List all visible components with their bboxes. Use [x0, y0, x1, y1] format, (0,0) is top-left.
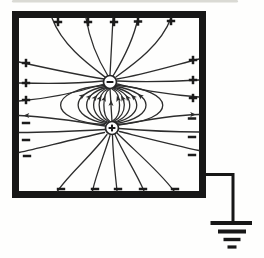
wall-minus-symbol: [114, 188, 122, 191]
field-line: [110, 89, 112, 122]
wall-plus-symbol: [192, 94, 195, 102]
field-line: [86, 18, 108, 76]
wall-minus-symbol: [188, 117, 196, 120]
field-line: [117, 59, 199, 79]
wall-minus-symbol: [188, 136, 196, 139]
field-diagram: [0, 0, 264, 258]
field-line: [52, 18, 105, 77]
wall-minus-symbol: [188, 154, 196, 157]
field-line: [78, 87, 105, 124]
positive-charge-symbol: [111, 125, 113, 132]
wall-minus-symbol: [91, 188, 99, 191]
wall-plus-symbol: [170, 17, 173, 25]
wall-plus-symbol: [137, 17, 140, 25]
wall-plus-symbol: [192, 56, 195, 64]
wall-minus-symbol: [139, 188, 147, 191]
field-arrow: [24, 113, 30, 118]
field-line: [58, 135, 108, 192]
wall-plus-symbol: [25, 59, 28, 67]
field-line: [61, 86, 105, 125]
wall-plus-symbol: [25, 96, 28, 104]
field-line: [93, 136, 111, 192]
field-line: [19, 116, 105, 127]
ground-wire: [202, 175, 233, 222]
wall-plus-symbol: [87, 18, 90, 26]
wall-minus-symbol: [22, 122, 30, 125]
wall-minus-symbol: [23, 155, 31, 158]
field-line: [113, 18, 138, 76]
field-line: [113, 136, 118, 192]
field-line: [115, 88, 137, 123]
field-line: [118, 80, 200, 82]
wall-minus-symbol: [171, 188, 179, 191]
field-line: [19, 62, 104, 79]
figure-canvas: [0, 0, 264, 258]
scan-artifact: [12, 0, 238, 3]
field-line: [19, 81, 104, 83]
field-line: [113, 89, 124, 122]
wall-plus-symbol: [25, 79, 28, 87]
box-frame: [16, 15, 203, 195]
field-line: [110, 18, 113, 75]
field-line: [19, 133, 105, 153]
wall-plus-symbol: [57, 18, 60, 26]
wall-minus-symbol: [22, 139, 30, 142]
negative-charge-symbol: [107, 81, 114, 83]
field-line: [104, 89, 110, 121]
wall-minus-symbol: [57, 188, 65, 191]
field-line: [115, 135, 144, 192]
field-line: [19, 130, 105, 133]
field-line: [119, 129, 199, 133]
wall-plus-symbol: [192, 76, 195, 84]
wall-plus-symbol: [113, 18, 116, 26]
